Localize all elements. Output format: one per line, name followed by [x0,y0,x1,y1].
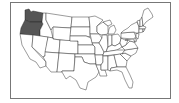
state-colorado [59,40,78,54]
state-new-mexico [57,53,75,72]
state-kansas [78,45,95,54]
state-oregon [20,20,43,36]
state-florida [110,67,133,88]
state-new-jersey [136,33,139,39]
state-washington [25,9,43,22]
state-north-dakota [71,17,90,27]
state-wyoming [53,27,71,41]
state-south-dakota [70,27,90,37]
state-rhode-island [143,29,145,32]
state-delaware [135,38,137,42]
us-map [0,0,179,103]
state-maine [142,8,153,26]
state-connecticut [139,29,143,33]
state-new-york [121,22,139,33]
